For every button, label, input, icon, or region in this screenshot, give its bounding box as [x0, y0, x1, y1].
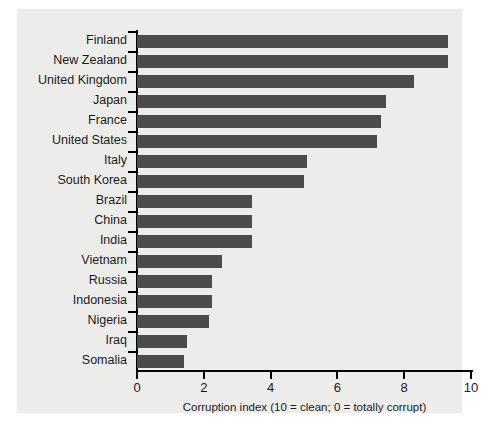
- x-axis-tick: [270, 372, 272, 379]
- bar: [137, 195, 252, 208]
- bar: [137, 295, 212, 308]
- x-axis-tick-label: 4: [267, 380, 274, 395]
- y-axis-label: India: [100, 234, 127, 247]
- x-axis-tick-label: 6: [334, 380, 341, 395]
- bars-plot-area: [137, 31, 471, 371]
- y-axis-label: United Kingdom: [38, 74, 127, 87]
- y-axis-label: Vietnam: [81, 254, 127, 267]
- bar: [137, 35, 448, 48]
- y-axis-category-labels: FinlandNew ZealandUnited KingdomJapanFra…: [35, 31, 127, 371]
- x-axis-title: Corruption index (10 = clean; 0 = totall…: [136, 401, 473, 413]
- y-axis-label: China: [94, 214, 127, 227]
- y-axis-label: Italy: [104, 154, 127, 167]
- x-axis-tick: [136, 372, 138, 379]
- bar: [137, 155, 307, 168]
- x-axis-tick-label: 8: [401, 380, 408, 395]
- y-axis-label: Nigeria: [87, 314, 127, 327]
- bar: [137, 335, 187, 348]
- bar: [137, 215, 252, 228]
- y-axis-label: South Korea: [58, 174, 128, 187]
- x-axis-tick: [470, 372, 472, 379]
- x-axis-tick: [203, 372, 205, 379]
- bar: [137, 175, 304, 188]
- y-axis-label: Brazil: [96, 194, 127, 207]
- bar: [137, 95, 386, 108]
- x-axis-tick: [403, 372, 405, 379]
- bar: [137, 75, 414, 88]
- y-axis-label: Finland: [86, 34, 127, 47]
- bar: [137, 115, 381, 128]
- bar: [137, 275, 212, 288]
- x-axis-tick: [336, 372, 338, 379]
- bar: [137, 315, 209, 328]
- x-axis-tick-label: 2: [200, 380, 207, 395]
- chart-panel: FinlandNew ZealandUnited KingdomJapanFra…: [17, 9, 462, 413]
- chart-figure: FinlandNew ZealandUnited KingdomJapanFra…: [0, 0, 490, 428]
- y-axis-label: Russia: [89, 274, 127, 287]
- bar: [137, 135, 377, 148]
- y-axis-label: Iraq: [105, 334, 127, 347]
- y-axis-label: Somalia: [82, 354, 127, 367]
- y-axis-label: Japan: [93, 94, 127, 107]
- bar: [137, 355, 184, 368]
- bar: [137, 55, 448, 68]
- y-axis-label: Indonesia: [73, 294, 127, 307]
- bar: [137, 255, 222, 268]
- y-axis-label: United States: [52, 134, 127, 147]
- y-axis-label: France: [88, 114, 127, 127]
- y-axis-label: New Zealand: [53, 54, 127, 67]
- bar: [137, 235, 252, 248]
- x-axis-tick-label: 10: [464, 380, 478, 395]
- x-axis-tick-label: 0: [133, 380, 140, 395]
